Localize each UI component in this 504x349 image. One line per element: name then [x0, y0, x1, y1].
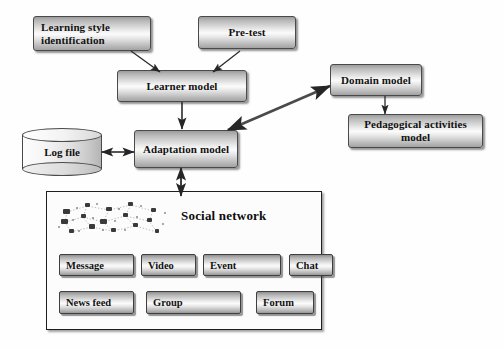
- social-network-title: Social network: [181, 208, 267, 224]
- connector-learningstyle-to-learnermodel: [131, 51, 160, 72]
- social-button-video-label: Video: [148, 260, 174, 271]
- social-network-panel: Social network Message Video Event Chat …: [46, 191, 322, 330]
- diagram-canvas: Learning style identification Pre-test L…: [0, 0, 504, 349]
- node-adaptation-model[interactable]: Adaptation model: [134, 130, 238, 168]
- node-learning-style-label: Learning style identification: [41, 21, 146, 46]
- node-pre-test-label: Pre-test: [228, 26, 265, 39]
- social-button-news-feed[interactable]: News feed: [59, 291, 134, 314]
- social-button-news-feed-label: News feed: [66, 297, 111, 308]
- social-button-video[interactable]: Video: [141, 254, 196, 276]
- node-log-file[interactable]: Log file: [22, 128, 102, 176]
- node-domain-model[interactable]: Domain model: [330, 64, 422, 96]
- social-button-group-label: Group: [153, 297, 183, 308]
- social-button-event-label: Event: [210, 260, 236, 271]
- node-cluster-icon: [57, 200, 173, 240]
- node-learner-model-label: Learner model: [146, 80, 217, 93]
- social-button-message[interactable]: Message: [59, 254, 134, 276]
- connector-pretest-to-learnermodel: [213, 51, 240, 72]
- node-log-file-label: Log file: [22, 128, 102, 176]
- node-pre-test[interactable]: Pre-test: [198, 16, 296, 49]
- node-pedagogical-model-label: Pedagogical activities model: [353, 118, 478, 143]
- social-button-group[interactable]: Group: [146, 291, 241, 314]
- node-adaptation-model-label: Adaptation model: [143, 143, 229, 156]
- social-button-chat[interactable]: Chat: [289, 254, 333, 276]
- social-button-chat-label: Chat: [296, 260, 318, 271]
- social-button-message-label: Message: [66, 260, 104, 271]
- node-domain-model-label: Domain model: [341, 74, 411, 87]
- social-button-forum[interactable]: Forum: [256, 291, 314, 314]
- social-button-forum-label: Forum: [263, 297, 294, 308]
- node-learning-style-identification[interactable]: Learning style identification: [33, 16, 151, 51]
- node-learner-model[interactable]: Learner model: [117, 70, 247, 102]
- node-pedagogical-activities-model[interactable]: Pedagogical activities model: [348, 114, 483, 148]
- social-button-event[interactable]: Event: [203, 254, 281, 276]
